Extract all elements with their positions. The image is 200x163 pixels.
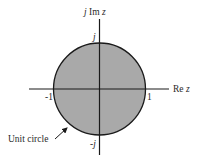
unit-circle-annotation: Unit circle — [8, 134, 48, 144]
real-axis-label: Re z — [173, 84, 190, 94]
tick-label-positive-imag: j — [91, 32, 96, 42]
tick-label-negative-imag: -j — [90, 139, 96, 149]
imaginary-axis-label: j Im z — [82, 7, 106, 17]
unit-circle-diagram: j Im z Re z j -j -1 1 Unit circle — [0, 0, 200, 163]
tick-label-negative-real: -1 — [45, 92, 53, 102]
tick-label-positive-real: 1 — [147, 92, 152, 102]
annotation-arrow — [55, 128, 67, 139]
